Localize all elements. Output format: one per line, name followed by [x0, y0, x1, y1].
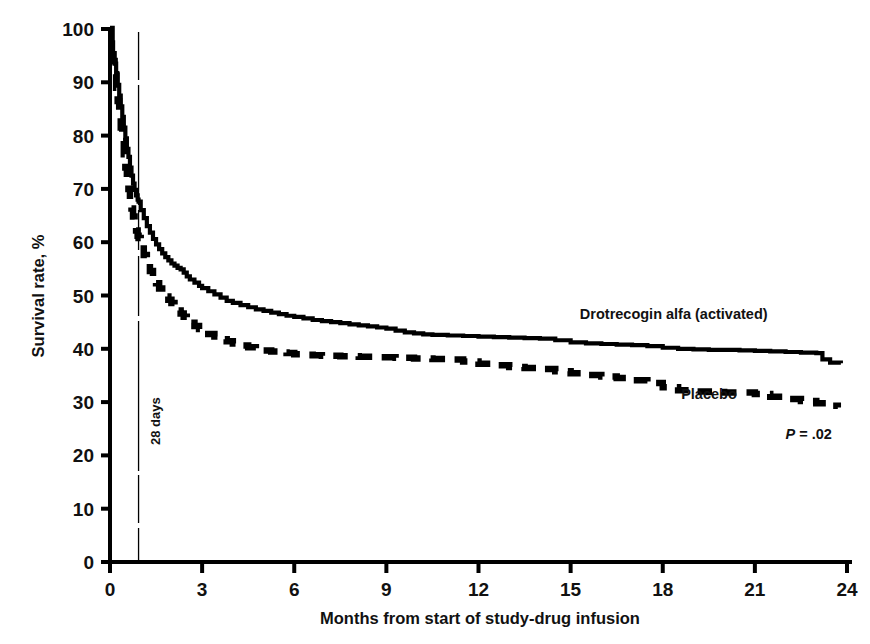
28-days-label: 28 days	[148, 397, 163, 445]
p-value-symbol: P	[786, 426, 796, 442]
placebo-series-label: Placebo	[681, 386, 737, 402]
x-tick-label-24: 24	[836, 579, 858, 600]
x-axis-title: Months from start of study-drug infusion	[320, 609, 640, 627]
y-tick-label-40: 40	[73, 339, 94, 360]
survival-chart-figure: 0102030405060708090100 03691215182124 28…	[0, 0, 870, 644]
x-tick-label-6: 6	[289, 579, 300, 600]
p-value-rest: = .02	[795, 426, 832, 442]
y-tick-label-20: 20	[73, 445, 94, 466]
x-tick-label-21: 21	[744, 579, 766, 600]
kaplan-meier-plot: 0102030405060708090100 03691215182124 28…	[0, 0, 870, 644]
x-tick-label-12: 12	[468, 579, 489, 600]
x-tick-label-18: 18	[652, 579, 673, 600]
y-tick-label-50: 50	[73, 286, 94, 307]
y-tick-label-0: 0	[83, 552, 94, 573]
drotrecogin-series-label: Drotrecogin alfa (activated)	[580, 306, 768, 322]
x-tick-label-9: 9	[381, 579, 392, 600]
y-tick-label-70: 70	[73, 179, 94, 200]
y-tick-label-10: 10	[73, 499, 94, 520]
y-tick-label-80: 80	[73, 126, 94, 147]
x-tick-label-0: 0	[105, 579, 116, 600]
y-tick-label-30: 30	[73, 392, 94, 413]
x-tick-label-15: 15	[560, 579, 582, 600]
y-axis-title: Survival rate, %	[29, 234, 47, 357]
x-tick-label-3: 3	[197, 579, 208, 600]
p-value-label: P = .02	[786, 426, 832, 442]
y-tick-label-100: 100	[62, 19, 94, 40]
y-tick-label-90: 90	[73, 72, 94, 93]
y-tick-label-60: 60	[73, 232, 94, 253]
